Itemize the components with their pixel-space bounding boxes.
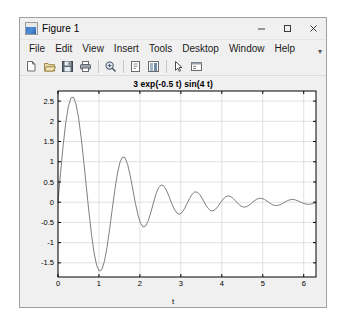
window-title: Figure 1 (42, 23, 248, 34)
figure-toolbar (20, 57, 326, 76)
menu-item-desktop[interactable]: Desktop (177, 40, 224, 57)
window-title-bar[interactable]: Figure 1 (20, 18, 326, 40)
svg-text:5: 5 (261, 279, 265, 288)
matlab-figure-icon (25, 22, 38, 35)
menu-item-edit[interactable]: Edit (50, 40, 77, 57)
svg-text:4: 4 (220, 279, 224, 288)
zoom-in-icon[interactable] (102, 58, 119, 75)
menu-item-help[interactable]: Help (270, 40, 301, 57)
menu-overflow-icon[interactable]: ▾ (318, 48, 322, 56)
svg-text:1: 1 (50, 157, 54, 166)
maximize-button[interactable] (274, 18, 300, 40)
minimize-button[interactable] (248, 18, 274, 40)
svg-text:1.5: 1.5 (44, 137, 54, 146)
svg-text:2.5: 2.5 (44, 97, 54, 106)
svg-text:-1: -1 (47, 238, 54, 247)
open-file-icon[interactable] (41, 58, 58, 75)
toolbar-separator (166, 60, 167, 73)
insert-colorbar-icon[interactable] (145, 58, 162, 75)
svg-text:0.5: 0.5 (44, 178, 54, 187)
plot-area: 3 exp(-0.5 t) sin(4 t) 0123456-1.5-1-0.5… (20, 76, 326, 307)
menu-item-file[interactable]: File (24, 40, 50, 57)
svg-text:6: 6 (302, 279, 306, 288)
close-button[interactable] (300, 18, 326, 40)
svg-text:2: 2 (138, 279, 142, 288)
menu-item-insert[interactable]: Insert (109, 40, 144, 57)
chart-svg: 0123456-1.5-1-0.500.511.522.5 (20, 76, 326, 307)
svg-text:-1.5: -1.5 (41, 258, 54, 267)
menu-item-tools[interactable]: Tools (144, 40, 177, 57)
svg-text:3: 3 (179, 279, 183, 288)
data-cursor-icon[interactable] (127, 58, 144, 75)
menu-item-window[interactable]: Window (224, 40, 270, 57)
insert-legend-icon[interactable] (188, 58, 205, 75)
svg-text:0: 0 (56, 279, 60, 288)
toolbar-separator (123, 60, 124, 73)
edit-plot-arrow-icon[interactable] (170, 58, 187, 75)
toolbar-separator (98, 60, 99, 73)
save-figure-icon[interactable] (59, 58, 76, 75)
print-figure-icon[interactable] (77, 58, 94, 75)
svg-text:-0.5: -0.5 (41, 218, 54, 227)
x-axis-label: t (20, 297, 326, 306)
window-controls (248, 18, 326, 40)
desktop-background: Figure 1 File Edit View Insert Tools Des… (0, 0, 346, 325)
figure-canvas[interactable]: 3 exp(-0.5 t) sin(4 t) 0123456-1.5-1-0.5… (20, 76, 326, 307)
svg-text:2: 2 (50, 117, 54, 126)
figure-window: Figure 1 File Edit View Insert Tools Des… (19, 17, 327, 308)
menu-item-view[interactable]: View (77, 40, 109, 57)
svg-text:0: 0 (50, 198, 54, 207)
menu-bar: File Edit View Insert Tools Desktop Wind… (20, 40, 326, 57)
new-figure-icon[interactable] (23, 58, 40, 75)
svg-text:1: 1 (97, 279, 101, 288)
